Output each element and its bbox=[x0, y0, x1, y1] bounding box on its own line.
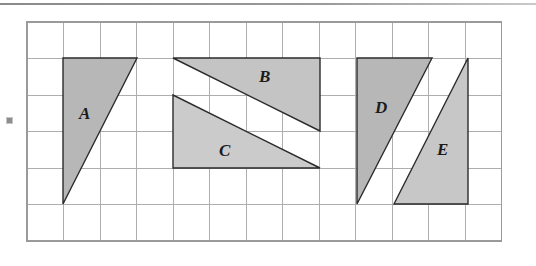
triangle-b-label: B bbox=[259, 68, 270, 85]
triangle-d-label: D bbox=[375, 99, 387, 116]
figure-container: ABCDE bbox=[0, 0, 536, 266]
grid-and-shapes-canvas bbox=[0, 0, 536, 266]
triangle-a-label: A bbox=[79, 105, 90, 122]
triangle-c-label: C bbox=[219, 142, 230, 159]
triangle-e-label: E bbox=[437, 141, 448, 158]
